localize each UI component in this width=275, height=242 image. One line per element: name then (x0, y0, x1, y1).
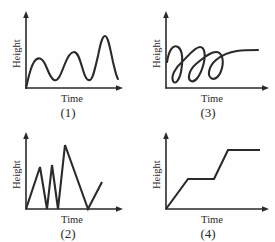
y-axis-arrow-3 (163, 11, 169, 18)
x-axis-arrow-2 (116, 206, 123, 212)
x-axis-label-3: Time (201, 93, 223, 104)
curve-staircase-4 (166, 150, 260, 209)
panel-caption-1: (1) (60, 105, 75, 120)
figure-sheet: Height Time (1) Height Time (3) (0, 0, 275, 242)
graph-panel-4: Height Time (4) (138, 121, 275, 242)
curve-spiral-loops-3 (167, 46, 258, 82)
curve-spikes-2 (26, 145, 102, 209)
y-axis-arrow-4 (163, 132, 169, 139)
graph-panel-3-plot: Height Time (3) (138, 0, 275, 121)
y-axis-arrow-1 (23, 11, 29, 18)
y-axis-label-4: Height (151, 160, 162, 189)
graph-panel-4-plot: Height Time (4) (138, 121, 275, 242)
y-axis-label-3: Height (151, 39, 162, 68)
x-axis-arrow-4 (262, 206, 269, 212)
x-axis-label-4: Time (201, 214, 223, 225)
graph-panel-2-plot: Height Time (2) (0, 121, 137, 242)
x-axis-label-2: Time (61, 214, 83, 225)
x-axis-label-1: Time (61, 93, 83, 104)
y-axis-label-1: Height (11, 39, 22, 68)
graph-panel-3: Height Time (3) (138, 0, 275, 121)
graph-panel-1: Height Time (1) (0, 0, 137, 121)
panel-caption-2: (2) (60, 226, 75, 241)
panel-caption-3: (3) (200, 105, 215, 120)
y-axis-label-2: Height (11, 160, 22, 189)
curve-wave-increasing-1 (26, 36, 118, 88)
y-axis-arrow-2 (23, 132, 29, 139)
x-axis-arrow-3 (262, 85, 269, 91)
graph-panel-2: Height Time (2) (0, 121, 137, 242)
x-axis-arrow-1 (116, 85, 123, 91)
graph-panel-1-plot: Height Time (1) (0, 0, 137, 121)
panel-caption-4: (4) (200, 226, 215, 241)
